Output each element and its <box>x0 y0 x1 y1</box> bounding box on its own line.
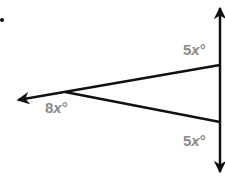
lower-segment <box>65 92 220 122</box>
label-vertex: 8x° <box>45 99 68 116</box>
label-top-right: 5x° <box>183 41 206 58</box>
bullet-dot <box>0 18 4 22</box>
upper-ray <box>18 65 220 100</box>
label-bottom-right: 5x° <box>183 132 206 149</box>
angle-diagram: 5x° 8x° 5x° <box>0 0 225 178</box>
